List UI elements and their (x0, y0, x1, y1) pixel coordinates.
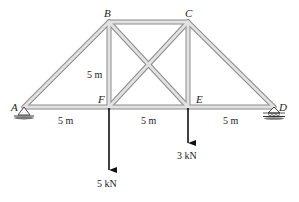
dim-height-BF: 5 m (87, 69, 103, 80)
node-label-E: E (195, 93, 203, 105)
dim-AF: 5 m (58, 115, 74, 126)
node-label-A: A (10, 101, 18, 113)
dim-ED: 5 m (223, 115, 239, 126)
dim-FE: 5 m (141, 115, 157, 126)
load-label-F: 5 kN (97, 178, 117, 189)
node-label-F: F (97, 93, 105, 105)
truss-members (24, 22, 274, 107)
truss-diagram: A B C D E F 5 m 5 m 5 m 5 m 5 kN 3 kN (0, 0, 299, 202)
load-label-E: 3 kN (177, 150, 197, 161)
node-label-C: C (185, 7, 193, 19)
node-label-B: B (104, 7, 111, 19)
node-label-D: D (278, 101, 287, 113)
